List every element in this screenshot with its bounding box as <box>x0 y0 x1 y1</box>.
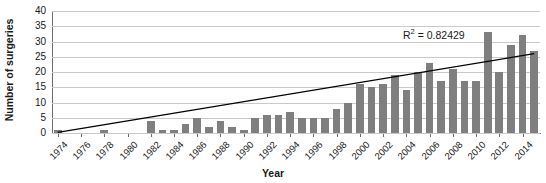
x-axis-tick-label: 1988 <box>203 139 232 168</box>
x-axis-tick <box>151 134 152 137</box>
x-axis-tick-label: 1986 <box>180 139 209 168</box>
y-axis-tick-label: 35 <box>22 21 46 31</box>
bar <box>159 130 167 133</box>
bar <box>484 32 492 133</box>
y-axis-tick-label: 5 <box>22 113 46 123</box>
bar <box>368 87 376 133</box>
bar <box>182 124 190 133</box>
x-axis-tick-label: 2012 <box>482 139 511 168</box>
x-axis-tick <box>290 134 291 137</box>
x-axis-tick <box>174 134 175 137</box>
bar <box>240 130 248 133</box>
bar <box>251 118 259 133</box>
x-axis-tick-label: 1974 <box>41 139 70 168</box>
x-axis-tick-label: 2004 <box>389 139 418 168</box>
x-axis-tick-label: 1996 <box>296 139 325 168</box>
y-axis-tick-label: 0 <box>22 128 46 138</box>
r-squared-prefix: R <box>403 29 411 41</box>
x-axis-tick <box>104 134 105 137</box>
bar <box>321 118 329 133</box>
x-axis-tick <box>220 134 221 137</box>
x-axis-tick-label: 1998 <box>319 139 348 168</box>
x-axis-tick <box>267 134 268 137</box>
r-squared-annotation: R2 = 0.82429 <box>403 27 465 41</box>
x-axis-tick-label: 1980 <box>110 139 139 168</box>
x-axis-tick <box>337 134 338 137</box>
bar <box>310 118 318 133</box>
x-axis-tick <box>406 134 407 137</box>
bar <box>344 103 352 134</box>
bar <box>507 45 515 133</box>
bar <box>286 112 294 133</box>
gridline <box>52 11 540 12</box>
bar <box>193 118 201 133</box>
gridline <box>52 72 540 73</box>
x-axis-tick <box>197 134 198 137</box>
bar <box>228 127 236 133</box>
bar <box>437 81 445 133</box>
gridline <box>52 133 540 134</box>
bar <box>217 121 225 133</box>
x-axis-tick <box>476 134 477 137</box>
x-axis-tick-label: 2006 <box>412 139 441 168</box>
x-axis-tick-label: 2000 <box>343 139 372 168</box>
x-axis-tick <box>360 134 361 137</box>
bar <box>461 81 469 133</box>
x-axis-tick-label: 2014 <box>505 139 534 168</box>
bar <box>426 63 434 133</box>
x-axis-tick <box>313 134 314 137</box>
y-axis-tick-label: 30 <box>22 37 46 47</box>
bar <box>356 84 364 133</box>
x-axis-tick <box>430 134 431 137</box>
y-axis-tick-label: 10 <box>22 98 46 108</box>
plot-area <box>52 11 540 133</box>
bar <box>495 72 503 133</box>
r-squared-value: = 0.82429 <box>415 29 465 41</box>
x-axis-tick <box>523 134 524 137</box>
x-axis-tick-label: 2010 <box>459 139 488 168</box>
x-axis-tick-label: 1992 <box>250 139 279 168</box>
y-axis-tick-label: 20 <box>22 67 46 77</box>
bar <box>403 90 411 133</box>
bar <box>519 35 527 133</box>
x-axis-tick-label: 1990 <box>226 139 255 168</box>
bar <box>54 130 62 133</box>
bar <box>298 118 306 133</box>
y-axis-tick-label: 15 <box>22 82 46 92</box>
bar <box>379 84 387 133</box>
y-axis-title: Number of surgeries <box>0 0 18 140</box>
x-axis-tick-label: 1984 <box>157 139 186 168</box>
x-axis-tick-label: 1994 <box>273 139 302 168</box>
x-axis-tick <box>58 134 59 137</box>
bar <box>414 72 422 133</box>
x-axis-tick <box>453 134 454 137</box>
bar <box>263 115 271 133</box>
x-axis-tick-label: 1978 <box>87 139 116 168</box>
bar <box>449 69 457 133</box>
x-axis-tick <box>499 134 500 137</box>
bar <box>391 75 399 133</box>
y-axis-tick-label: 40 <box>22 6 46 16</box>
x-axis-tick-label: 2008 <box>436 139 465 168</box>
bar <box>100 130 108 133</box>
bar <box>333 109 341 133</box>
x-axis-tick-label: 2002 <box>366 139 395 168</box>
bar <box>472 81 480 133</box>
x-axis-title: Year <box>0 167 546 179</box>
y-axis-tick-label: 25 <box>22 52 46 62</box>
gridline <box>52 26 540 27</box>
bar <box>530 51 538 133</box>
bar <box>170 130 178 133</box>
x-axis-tick <box>244 134 245 137</box>
y-axis-title-text: Number of surgeries <box>3 19 15 122</box>
gridline <box>52 42 540 43</box>
x-axis-tick <box>128 134 129 137</box>
x-axis-tick <box>81 134 82 137</box>
x-axis-tick <box>383 134 384 137</box>
bar <box>147 121 155 133</box>
gridline <box>52 57 540 58</box>
bar <box>205 127 213 133</box>
x-axis-tick-label: 1976 <box>64 139 93 168</box>
x-axis-tick-label: 1982 <box>134 139 163 168</box>
bar-chart-figure: Number of surgeries 0510152025303540 197… <box>0 0 546 183</box>
